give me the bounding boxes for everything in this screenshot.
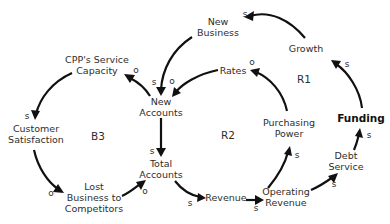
node-label: Business to <box>65 192 123 203</box>
node-label: Satisfaction <box>8 134 64 145</box>
node-cpp-service-capacity: CPP's Service Capacity <box>65 54 129 76</box>
node-new-business: New Business <box>197 16 239 38</box>
link-operating-revenue-to-debt-service <box>311 177 333 190</box>
arrowhead-funding <box>355 128 363 138</box>
node-label: Capacity <box>65 65 129 76</box>
node-label: Accounts <box>139 107 182 118</box>
polarity-funding-growth: s <box>345 59 350 69</box>
link-new-accounts-to-cpp <box>130 78 150 96</box>
link-growth-to-new-business <box>250 14 305 38</box>
arrowhead-purchasing-power <box>284 146 292 156</box>
polarity-revenue-operating-revenue: s <box>254 203 259 213</box>
node-debt-service: Debt Service <box>328 150 363 172</box>
node-label: Funding <box>337 113 385 124</box>
node-label: Revenue <box>205 192 246 203</box>
node-label: Purchasing <box>263 117 315 128</box>
causal-loop-diagram: New Business Growth Rates CPP's Service … <box>0 0 390 224</box>
node-label: Competitors <box>65 203 123 214</box>
node-operating-revenue: Operating Revenue <box>262 186 310 208</box>
node-revenue: Revenue <box>205 192 246 203</box>
link-lost-business-to-total-accounts <box>122 184 140 196</box>
polarity-purchasing-power-rates: o <box>249 57 255 67</box>
node-label: Growth <box>289 43 323 54</box>
polarity-new-accounts-total-accounts: s <box>150 146 155 156</box>
loop-label-b3: B3 <box>91 130 105 142</box>
node-label: Customer <box>8 123 64 134</box>
node-label: Revenue <box>262 197 310 208</box>
link-funding-to-growth <box>336 64 362 108</box>
arrowhead-customer-satisfaction <box>31 110 40 120</box>
polarity-customer-satisfaction-lost-business: o <box>48 188 54 198</box>
node-funding: Funding <box>337 113 385 124</box>
node-new-accounts: New Accounts <box>139 96 182 118</box>
node-label: Service <box>328 161 363 172</box>
arrowhead-new-accounts-a <box>156 87 166 96</box>
polarity-operating-revenue-purchasing-power: s <box>295 150 300 160</box>
node-label: New <box>139 96 182 107</box>
node-label: Debt <box>328 150 363 161</box>
link-purchasing-power-to-rates <box>256 72 287 111</box>
polarity-total-accounts-revenue: s <box>188 198 193 208</box>
link-operating-revenue-to-purchasing-power <box>268 152 288 188</box>
node-label: Accounts <box>139 169 182 180</box>
node-customer-satisfaction: Customer Satisfaction <box>8 123 64 145</box>
link-layer <box>0 0 390 224</box>
polarity-rates-new-accounts: o <box>169 76 175 86</box>
node-label: Rates <box>220 65 247 76</box>
node-label: Operating <box>262 186 310 197</box>
node-label: New <box>197 16 239 27</box>
polarity-lost-business-total-accounts: o <box>142 186 148 196</box>
link-customer-satisfaction-to-lost-business <box>34 150 58 189</box>
node-purchasing-power: Purchasing Power <box>263 117 315 139</box>
node-label: Business <box>197 27 239 38</box>
node-label: CPP's Service <box>65 54 129 65</box>
link-rates-to-new-accounts <box>176 70 218 92</box>
node-total-accounts: Total Accounts <box>139 158 182 180</box>
link-cpp-to-customer-satisfaction <box>36 73 72 114</box>
polarity-debt-service-funding: s <box>367 130 372 140</box>
polarity-growth-new-business: s <box>243 9 248 19</box>
node-rates: Rates <box>220 65 247 76</box>
polarity-operating-revenue-debt-service: s <box>332 179 337 189</box>
node-growth: Growth <box>289 43 323 54</box>
node-lost-business: Lost Business to Competitors <box>65 181 123 214</box>
link-total-accounts-to-revenue <box>175 181 200 197</box>
polarity-new-accounts-cpp: o <box>133 65 139 75</box>
node-label: Lost <box>65 181 123 192</box>
polarity-cpp-customer-satisfaction: s <box>25 111 30 121</box>
loop-label-r1: R1 <box>297 73 311 85</box>
polarity-new-business-new-accounts: s <box>152 77 157 87</box>
node-label: Power <box>263 128 315 139</box>
node-label: Total <box>139 158 182 169</box>
arrowhead-rates <box>250 68 260 77</box>
loop-label-r2: R2 <box>221 129 235 141</box>
arrowhead-total-accounts-b <box>156 148 166 157</box>
